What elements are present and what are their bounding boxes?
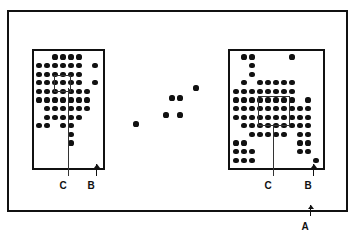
left-cluster-dot (68, 63, 73, 68)
right-cluster-dot (257, 89, 262, 94)
left-cluster-dot (68, 106, 73, 111)
left-cluster-dot (68, 97, 73, 102)
left-cluster-dot (60, 115, 65, 120)
right-cluster-dot (241, 140, 246, 145)
left-cluster-dot (60, 97, 65, 102)
right-cluster-dot (249, 63, 254, 68)
left-cluster-dot (76, 115, 81, 120)
left-cluster-dot (92, 63, 97, 68)
left-cluster-dot (84, 89, 89, 94)
right-cluster-dot (257, 132, 262, 137)
right-cluster-dot (297, 140, 302, 145)
left-cluster-dot (52, 54, 57, 59)
right-cluster-dot (257, 80, 262, 85)
scatter-dot (193, 85, 198, 90)
left-cluster-dot (76, 97, 81, 102)
right-cluster-dot (305, 149, 310, 154)
left-cluster-dot (60, 63, 65, 68)
right-cluster-dot (305, 132, 310, 137)
right-cluster-dot (297, 132, 302, 137)
right-cluster-dot (305, 97, 310, 102)
scatter-dot (133, 121, 138, 126)
right-cluster-dot (289, 89, 294, 94)
scatter-dot (163, 112, 168, 117)
left-cluster-dot (52, 97, 57, 102)
right-cluster-dot (281, 132, 286, 137)
right-cluster-dot (305, 115, 310, 120)
right-cluster-dot (273, 89, 278, 94)
left-cluster-dot (76, 54, 81, 59)
right-cluster-dot (289, 97, 294, 102)
left-cluster-dot (60, 123, 65, 128)
right-cluster-dot (249, 115, 254, 120)
right-cluster-dot (273, 80, 278, 85)
scatter-dot (177, 95, 182, 100)
left-cluster-dot (60, 54, 65, 59)
right-cluster-dot (241, 89, 246, 94)
right-cluster-dot (233, 158, 238, 163)
label-b-2: B (84, 181, 98, 191)
right-cluster-dot (249, 158, 254, 163)
right-cluster-dot (305, 140, 310, 145)
left-cluster-dot (52, 115, 57, 120)
right-cluster-dot (241, 54, 246, 59)
left-cluster-dot (84, 106, 89, 111)
right-cluster-dot (233, 149, 238, 154)
right-cluster-dot (297, 123, 302, 128)
leader-c-right (273, 126, 274, 176)
right-cluster-dot (297, 106, 302, 111)
right-cluster-dot (249, 106, 254, 111)
right-cluster-dot (241, 158, 246, 163)
arrow-b-left-head (94, 164, 100, 168)
left-cluster-dot (68, 54, 73, 59)
right-cluster-dot (305, 123, 310, 128)
right-cluster-dot (289, 123, 294, 128)
right-cluster-dot (241, 115, 246, 120)
label-a-0: A (298, 222, 312, 232)
label-c-3: C (261, 181, 275, 191)
right-cluster-dot (249, 54, 254, 59)
left-cluster-dot (44, 80, 49, 85)
left-cluster-dot (68, 132, 73, 137)
right-cluster-dot (289, 80, 294, 85)
left-cluster-dot (44, 115, 49, 120)
left-cluster-dot (36, 97, 41, 102)
left-cluster-dot (76, 63, 81, 68)
right-cluster-dot (281, 80, 286, 85)
right-cluster-dot (241, 123, 246, 128)
right-cluster-dot (249, 132, 254, 137)
right-cluster-dot (297, 149, 302, 154)
right-cluster-dot (233, 115, 238, 120)
right-cluster-dot (265, 80, 270, 85)
right-cluster-inner-box-c (258, 96, 290, 126)
right-cluster-dot (233, 97, 238, 102)
right-cluster-dot (249, 89, 254, 94)
left-cluster-dot (44, 63, 49, 68)
label-b-4: B (301, 181, 315, 191)
left-cluster-dot (44, 89, 49, 94)
left-cluster-dot (44, 106, 49, 111)
right-cluster-dot (297, 115, 302, 120)
scatter-dot (177, 112, 182, 117)
left-cluster-dot (60, 106, 65, 111)
right-cluster-dot (249, 72, 254, 77)
right-cluster-dot (249, 149, 254, 154)
right-cluster-dot (313, 158, 318, 163)
left-cluster-dot (92, 80, 97, 85)
left-cluster-dot (76, 80, 81, 85)
label-c-1: C (56, 181, 70, 191)
left-cluster-dot (36, 89, 41, 94)
right-cluster-dot (289, 115, 294, 120)
left-cluster-dot (36, 63, 41, 68)
arrow-a-head (308, 205, 314, 209)
left-cluster-dot (44, 123, 49, 128)
right-cluster-dot (241, 149, 246, 154)
left-cluster-dot (68, 140, 73, 145)
left-cluster-dot (36, 123, 41, 128)
right-cluster-dot (233, 89, 238, 94)
leader-c-left (68, 88, 69, 176)
right-cluster-dot (241, 80, 246, 85)
right-cluster-dot (289, 54, 294, 59)
left-cluster-dot (36, 72, 41, 77)
left-cluster-dot (52, 63, 57, 68)
